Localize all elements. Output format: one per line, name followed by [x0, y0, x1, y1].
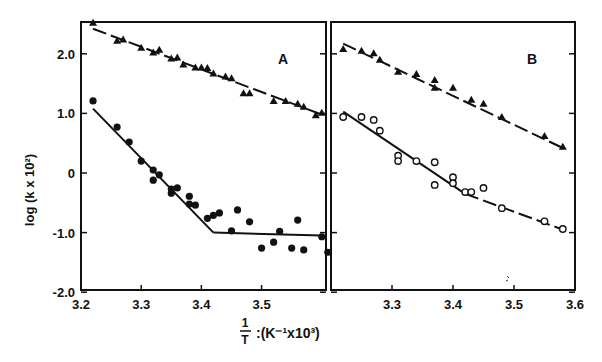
- open-circle-marker: [560, 226, 566, 232]
- triangle-marker: [221, 72, 229, 79]
- triangle-marker: [412, 70, 420, 77]
- y-axis-label: log (k x 10²): [22, 154, 37, 226]
- arrhenius-figure: 3.23.33.43.5-2.0-1.001.02.0A 3.33.43.53.…: [0, 0, 602, 362]
- triangle-marker: [227, 74, 235, 81]
- triangle-marker: [358, 47, 366, 54]
- open-circle-marker: [432, 159, 438, 165]
- triangle-marker: [541, 132, 549, 139]
- y-tick-label: -1.0: [53, 226, 75, 241]
- filled-circle-marker: [192, 202, 199, 209]
- triangle-marker: [318, 109, 326, 116]
- open-circle-marker: [371, 117, 377, 123]
- plot-canvas: 3.23.33.43.5-2.0-1.001.02.0A 3.33.43.53.…: [0, 0, 602, 362]
- y-tick-label: 0: [68, 166, 75, 181]
- open-circle-marker: [499, 205, 505, 211]
- y-tick-label: 1.0: [57, 106, 75, 121]
- x-tick-label: 3.4: [192, 297, 211, 312]
- filled-circle-marker: [234, 206, 241, 213]
- filled-circle-marker: [216, 209, 223, 216]
- triangle-marker: [467, 96, 475, 103]
- filled-circle-marker: [258, 244, 265, 251]
- panel-b: 3.33.43.53.6B: [331, 22, 584, 312]
- triangle-marker: [155, 46, 163, 53]
- x-tick-label: 3.3: [132, 297, 150, 312]
- filled-circle-marker: [138, 157, 145, 164]
- x-tick-label: 3.4: [444, 297, 463, 312]
- panel-label: B: [527, 51, 537, 67]
- open-circle-marker: [413, 158, 419, 164]
- x-axis-label-numerator: 1: [242, 316, 249, 330]
- x-tick-label: 3.5: [253, 297, 271, 312]
- open-circle-marker: [541, 218, 547, 224]
- filled-circle-marker: [186, 200, 193, 207]
- triangle-marker: [376, 56, 384, 63]
- triangle-marker: [197, 64, 205, 71]
- open-circle-marker: [377, 127, 383, 133]
- stray-mark: [506, 276, 509, 281]
- filled-circle-marker: [318, 233, 325, 240]
- triangle-marker: [449, 84, 457, 91]
- filled-circle-marker: [156, 171, 163, 178]
- panel-frame: [331, 22, 575, 290]
- filled-circle-marker: [288, 244, 295, 251]
- filled-circle-marker: [276, 228, 283, 235]
- triangle-marker: [480, 100, 488, 107]
- open-circle-marker: [450, 180, 456, 186]
- filled-circle-marker: [168, 190, 175, 197]
- filled-circle-marker: [246, 218, 253, 225]
- triangle-marker: [173, 53, 181, 60]
- triangle-marker: [498, 113, 506, 120]
- filled-circle-marker: [228, 227, 235, 234]
- filled-circle-marker: [294, 216, 301, 223]
- open-circle-marker: [480, 185, 486, 191]
- filled-circle-marker: [114, 124, 121, 131]
- filled-circle-marker: [150, 177, 157, 184]
- open-circle-marker: [358, 114, 364, 120]
- filled-circle-marker: [89, 97, 96, 104]
- x-tick-label: 3.3: [383, 297, 401, 312]
- fit-line: [465, 194, 563, 230]
- open-circle-marker: [432, 182, 438, 188]
- axis-labels: log (k x 10²) 1 T :(K⁻¹x10³): [22, 154, 320, 347]
- open-circle-marker: [468, 189, 474, 195]
- panel-a: 3.23.33.43.5-2.0-1.001.02.0A: [53, 19, 332, 312]
- x-axis-label-units: :(K⁻¹x10³): [256, 325, 320, 341]
- triangle-marker: [246, 89, 254, 96]
- filled-circle-marker: [300, 246, 307, 253]
- open-circle-marker: [395, 158, 401, 164]
- triangle-marker: [431, 76, 439, 83]
- triangle-marker: [294, 100, 302, 107]
- x-axis-label-denominator: T: [241, 333, 249, 347]
- triangle-marker: [203, 64, 211, 71]
- open-circle-marker: [340, 114, 346, 120]
- x-tick-label: 3.5: [505, 297, 523, 312]
- fit-line: [343, 112, 465, 194]
- filled-circle-marker: [174, 184, 181, 191]
- y-tick-label: -2.0: [53, 285, 75, 300]
- triangle-marker: [370, 49, 378, 56]
- panel-label: A: [278, 51, 288, 67]
- filled-circle-marker: [270, 239, 277, 246]
- x-tick-label: 3.6: [566, 297, 584, 312]
- filled-circle-marker: [150, 166, 157, 173]
- y-tick-label: 2.0: [57, 47, 75, 62]
- filled-circle-marker: [186, 193, 193, 200]
- filled-circle-marker: [126, 138, 133, 145]
